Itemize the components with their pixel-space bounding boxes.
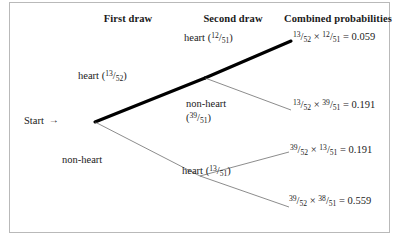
prob-3-fraction-2: 13/51 — [319, 143, 337, 157]
prob-4-fraction-2: 38/51 — [318, 194, 336, 208]
fraction-13-51: (13/51) — [206, 163, 231, 180]
branch-label-first-nonheart-name: non-heart — [62, 154, 102, 165]
prob-4-times: × — [310, 195, 316, 206]
prob-4-equals: = — [339, 195, 345, 206]
branch-heart-to-heart-bold — [205, 41, 291, 78]
branch-nonheart-to-nonheart — [200, 176, 289, 207]
prob-3-times: × — [311, 144, 317, 155]
combined-probability-row-3: 39/52 × 13/51 = 0.191 — [290, 143, 372, 157]
branch-label-second-heart-top-name: heart — [184, 32, 205, 43]
prob-1-times: × — [314, 31, 320, 42]
prob-1-value: 0.059 — [352, 31, 376, 42]
column-header-first-draw: First draw — [78, 13, 178, 24]
column-header-second-draw: Second draw — [185, 13, 281, 24]
combined-probability-row-4: 39/52 × 38/51 = 0.559 — [289, 194, 371, 208]
fraction-13-52: (13/52) — [102, 68, 127, 85]
branch-label-second-heart-bottom: heart (13/51) — [182, 163, 231, 180]
prob-2-times: × — [314, 99, 320, 110]
prob-1-equals: = — [343, 31, 349, 42]
combined-probability-row-2: 13/52 × 39/51 = 0.191 — [293, 98, 375, 112]
arrow-right-icon: → — [49, 114, 59, 125]
start-label: Start — [24, 115, 44, 126]
fraction-12-51: (12/51) — [208, 30, 233, 47]
branch-label-second-heart-top: heart (12/51) — [184, 30, 233, 47]
branch-label-second-heart-bottom-name: heart — [182, 165, 203, 176]
prob-1-fraction-1: 13/52 — [293, 30, 311, 44]
probability-tree-figure: First draw Second draw Combined probabil… — [0, 0, 408, 239]
combined-probability-row-1: 13/52 × 12/51 = 0.059 — [293, 30, 375, 44]
fraction-39-51: (39/51) — [186, 110, 211, 127]
prob-4-value: 0.559 — [348, 195, 372, 206]
column-header-combined-probabilities: Combined probabilities — [284, 13, 388, 24]
branch-label-second-nonheart-top-name: non-heart — [186, 98, 226, 110]
branch-label-first-nonheart: non-heart — [62, 154, 102, 166]
prob-4-fraction-1: 39/52 — [289, 194, 307, 208]
prob-2-equals: = — [343, 99, 349, 110]
prob-2-value: 0.191 — [352, 99, 376, 110]
prob-3-equals: = — [340, 144, 346, 155]
branch-label-first-heart-name: heart — [78, 70, 99, 81]
prob-3-value: 0.191 — [349, 144, 373, 155]
prob-3-fraction-1: 39/52 — [290, 143, 308, 157]
start-node: Start→ — [24, 115, 59, 126]
prob-2-fraction-2: 39/51 — [322, 98, 340, 112]
branch-label-second-nonheart-top: non-heart (39/51) — [186, 98, 226, 127]
branch-label-first-heart: heart (13/52) — [78, 68, 127, 85]
prob-1-fraction-2: 12/51 — [322, 30, 340, 44]
prob-2-fraction-1: 13/52 — [293, 98, 311, 112]
